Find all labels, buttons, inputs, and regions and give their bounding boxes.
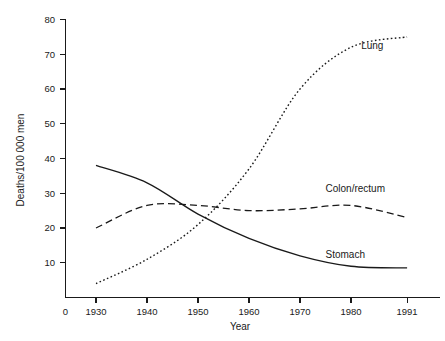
y-axis-title: Deaths/100 000 men (15, 114, 26, 207)
y-tick-label: 10 (44, 257, 55, 268)
x-tick-label: 1960 (238, 306, 259, 317)
x-tick-label: 1991 (397, 306, 418, 317)
series-line-colon-rectum (96, 204, 407, 228)
x-tick-label: 1980 (340, 306, 361, 317)
chart-figure: 1020304050607080 01930194019501960197019… (0, 0, 445, 341)
y-tick-label: 20 (44, 222, 55, 233)
y-tick-label: 30 (44, 188, 55, 199)
series-label-lung: Lung (361, 40, 383, 51)
x-axis-ticks: 01930194019501960197019801991 (63, 298, 418, 317)
x-axis-title: Year (230, 321, 251, 332)
y-tick-label: 50 (44, 118, 55, 129)
series-label-stomach: Stomach (326, 249, 365, 260)
x-tick-label: 0 (63, 306, 68, 317)
y-tick-label: 60 (44, 83, 55, 94)
y-axis: 1020304050607080 (44, 14, 65, 298)
x-tick-label: 1940 (136, 306, 157, 317)
x-tick-label: 1970 (289, 306, 310, 317)
y-tick-label: 70 (44, 49, 55, 60)
series-label-group: LungColon/rectumStomach (326, 40, 385, 260)
series-label-colon-rectum: Colon/rectum (326, 183, 385, 194)
y-axis-ticks: 1020304050607080 (44, 14, 65, 268)
line-chart: 1020304050607080 01930194019501960197019… (0, 0, 445, 341)
data-series-group (96, 37, 407, 284)
series-line-lung (96, 37, 407, 284)
y-tick-label: 40 (44, 153, 55, 164)
x-axis: 01930194019501960197019801991 (63, 298, 440, 317)
x-tick-label: 1950 (187, 306, 208, 317)
y-tick-label: 80 (44, 14, 55, 25)
x-tick-label: 1930 (85, 306, 106, 317)
